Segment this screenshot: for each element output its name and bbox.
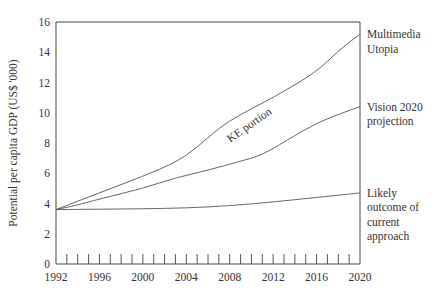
annotations: KE portion xyxy=(225,105,275,145)
y-axis-title: Potential per capita GDP (US$ '000) xyxy=(7,59,20,227)
line-chart: 19921996200020042008201220162020 0246810… xyxy=(0,0,443,297)
axes xyxy=(56,22,360,264)
minor-ticks xyxy=(67,254,349,264)
series-label-line: projection xyxy=(367,115,414,128)
series-label-line: approach xyxy=(367,230,409,243)
x-tick-label: 2012 xyxy=(262,271,285,283)
x-tick-label: 2016 xyxy=(305,271,328,283)
x-tick-label: 1992 xyxy=(45,271,68,283)
series-labels: MultimediaUtopiaVision 2020projectionLik… xyxy=(367,28,423,243)
series-label-line: Vision 2020 xyxy=(367,101,423,113)
y-tick-label: 0 xyxy=(44,258,50,270)
series-line-1 xyxy=(56,34,360,210)
y-tick-label: 4 xyxy=(44,198,50,210)
series-label-line: Utopia xyxy=(367,43,398,56)
x-tick-label: 2008 xyxy=(218,271,241,283)
series-label-line: current xyxy=(367,216,400,228)
y-tick-label: 2 xyxy=(44,228,50,240)
y-tick-label: 14 xyxy=(39,46,51,58)
series-label-3: Likelyoutcome ofcurrentapproach xyxy=(367,187,419,244)
series-lines xyxy=(56,34,360,210)
y-tick-label: 16 xyxy=(39,16,51,28)
x-tick-label: 2000 xyxy=(131,271,154,283)
x-tick-label: 2020 xyxy=(349,271,372,283)
y-tick-labels: 0246810121416 xyxy=(39,16,51,270)
series-label-1: MultimediaUtopia xyxy=(367,28,421,56)
series-label-line: outcome of xyxy=(367,201,419,213)
series-label-line: Multimedia xyxy=(367,28,421,40)
x-tick-label: 1996 xyxy=(88,271,111,283)
x-tick-labels: 19921996200020042008201220162020 xyxy=(45,271,372,283)
series-label-2: Vision 2020projection xyxy=(367,101,423,129)
y-tick-label: 8 xyxy=(44,137,50,149)
annotation-ke-portion: KE portion xyxy=(225,105,275,145)
y-tick-label: 12 xyxy=(39,77,51,89)
series-label-line: Likely xyxy=(367,187,397,200)
x-tick-label: 2004 xyxy=(175,271,198,283)
y-tick-label: 6 xyxy=(44,167,50,179)
series-line-2 xyxy=(56,107,360,210)
series-line-3 xyxy=(56,193,360,210)
y-tick-label: 10 xyxy=(39,107,51,119)
